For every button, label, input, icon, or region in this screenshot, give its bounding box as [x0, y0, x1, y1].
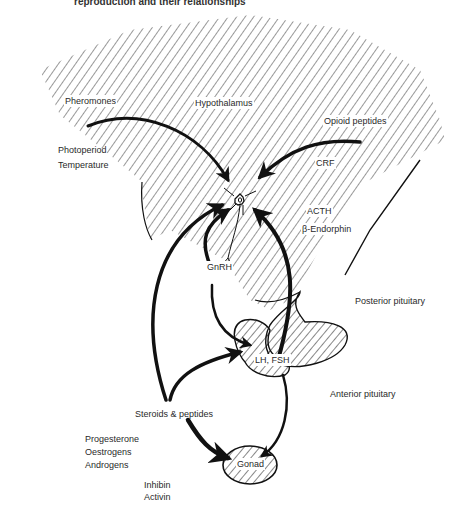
label-posterior-pituitary: Posterior pituitary: [355, 295, 425, 307]
label-activin: Activin: [144, 491, 171, 503]
label-progesterone: Progesterone: [85, 433, 139, 445]
label-beta-endorphin: β-Endorphin: [301, 223, 352, 235]
label-pheromones: Pheromones: [64, 95, 117, 107]
label-steroids-peptides: Steroids & peptides: [135, 408, 213, 420]
label-oestrogens: Oestrogens: [85, 446, 132, 458]
label-androgens: Androgens: [85, 459, 129, 471]
label-temperature: Temperature: [58, 159, 109, 171]
label-anterior-pituitary: Anterior pituitary: [330, 388, 396, 400]
label-lh-fsh: LH, FSH: [254, 354, 291, 366]
label-inhibin: Inhibin: [144, 479, 171, 491]
label-crf: CRF: [315, 157, 336, 169]
label-acth: ACTH: [306, 205, 333, 217]
label-photoperiod: Photoperiod: [58, 144, 107, 156]
hpg-axis-diagram: [0, 0, 453, 512]
label-opioid-peptides: Opioid peptides: [323, 115, 388, 127]
label-hypothalamus: Hypothalamus: [194, 97, 254, 109]
label-gnrh: GnRH: [206, 261, 233, 273]
label-gonad: Gonad: [236, 458, 265, 470]
